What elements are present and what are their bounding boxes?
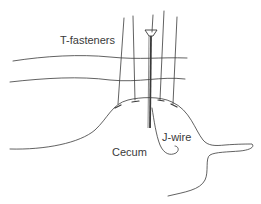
t-fastener-suture-5: [152, 15, 153, 32]
j-wire-label: J-wire: [162, 132, 191, 143]
t-fastener-suture-1: [118, 18, 124, 104]
needle-shaft: [150, 36, 151, 128]
t-fastener-suture-4: [173, 17, 177, 104]
cecostomy-diagram: T-fasteners Cecum J-wire: [0, 0, 261, 204]
t-fastener-suture-3: [160, 11, 164, 100]
needle-hub: [145, 30, 157, 36]
abdominal-wall-lower-line: [10, 78, 185, 82]
diagram-canvas: [0, 0, 261, 204]
abdominal-wall-upper-line: [13, 56, 187, 61]
t-fastener-bar-2: [132, 101, 139, 102]
t-fasteners-label: T-fasteners: [60, 35, 115, 46]
needle-shaft-edge: [148, 36, 149, 128]
cecum-label: Cecum: [112, 147, 147, 158]
t-fastener-bar-3: [158, 100, 164, 101]
